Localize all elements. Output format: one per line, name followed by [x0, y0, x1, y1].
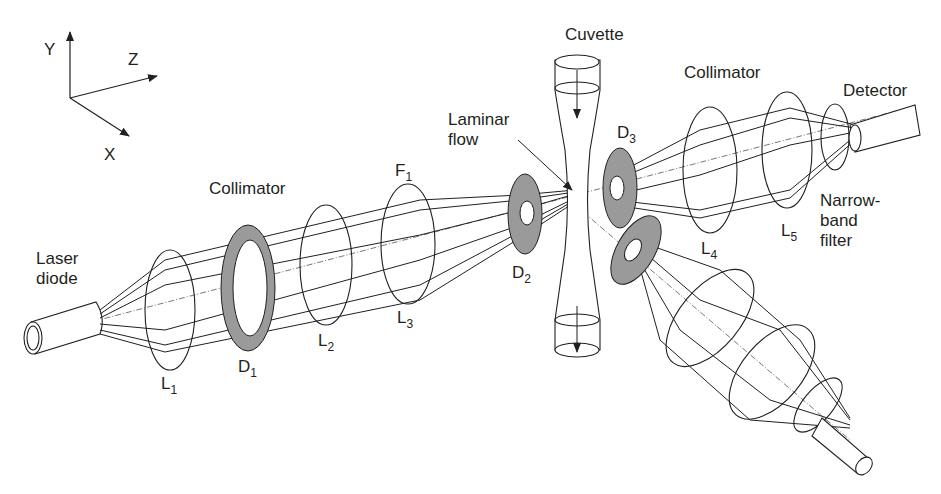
labels: Laser diode Collimator Cuvette Laminar f… — [36, 25, 908, 397]
forward-detection-rays — [615, 108, 855, 218]
filter-label-2: band — [820, 211, 858, 230]
l2-label: L2 — [318, 331, 334, 354]
laminar-flow-label-1: Laminar — [448, 110, 510, 129]
d3-label: D3 — [617, 123, 636, 146]
laser-diode — [24, 302, 102, 354]
cuvette-label: Cuvette — [565, 25, 624, 44]
lens-l4 — [683, 107, 737, 233]
l3-label: L3 — [397, 308, 413, 331]
l1-label: L1 — [161, 374, 177, 397]
diaphragm-d3 — [603, 148, 637, 228]
side-lens-1 — [650, 254, 771, 381]
coordinate-axes: Y Z X — [44, 32, 157, 164]
diaphragm-d1 — [221, 225, 275, 351]
diaphragm-d2 — [508, 174, 542, 254]
collimator-2-label: Collimator — [684, 63, 761, 82]
f1-label: F1 — [395, 161, 412, 184]
side-scatter-rays — [630, 240, 850, 428]
laser-diode-label-1: Laser — [36, 249, 79, 268]
l5-label: L5 — [781, 221, 797, 244]
filter-label-3: filter — [820, 231, 852, 250]
scatter-optical-axis — [575, 205, 850, 440]
y-axis-label: Y — [44, 40, 55, 59]
d2-label: D2 — [512, 263, 531, 286]
x-axis-label: X — [104, 145, 115, 164]
z-axis-arrow — [70, 76, 157, 98]
collimator-1-label: Collimator — [209, 179, 286, 198]
filter-label-1: Narrow- — [820, 191, 880, 210]
x-axis-arrow — [70, 98, 129, 136]
detector-label: Detector — [843, 81, 908, 100]
cuvette — [555, 55, 600, 357]
l4-label: L4 — [701, 239, 717, 262]
flow-cytometer-optical-diagram: Y Z X — [0, 0, 941, 494]
laminar-flow-label-2: flow — [448, 130, 479, 149]
detector — [849, 105, 920, 152]
lens-l1 — [145, 250, 195, 370]
laser-diode-label-2: diode — [36, 269, 78, 288]
d1-label: D1 — [238, 357, 257, 380]
input-beam-rays — [100, 190, 575, 352]
narrow-band-filter — [821, 104, 849, 170]
z-axis-label: Z — [128, 50, 138, 69]
